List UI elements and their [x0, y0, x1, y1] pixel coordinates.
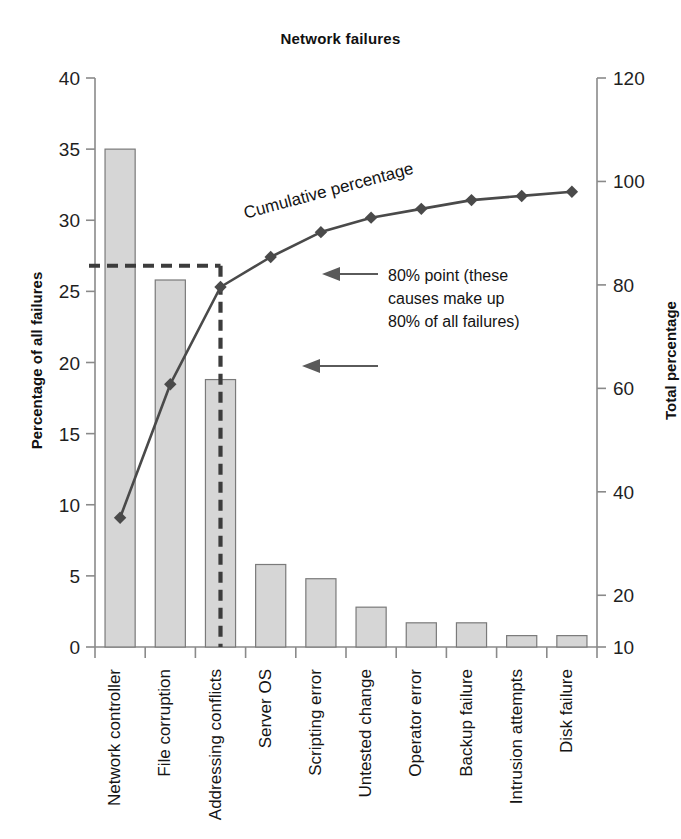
bar	[456, 623, 486, 647]
x-axis-category-label: Disk failure	[557, 669, 576, 753]
y-axis-right-ticks: 1020406080100120	[597, 68, 645, 658]
eighty-percent-note-line: causes make up	[388, 290, 505, 307]
plot-area: 0510152025303540 1020406080100120 Networ…	[0, 0, 681, 839]
y-tick-label-right: 80	[613, 275, 634, 296]
y-tick-label-right: 60	[613, 378, 634, 399]
bar	[406, 623, 436, 647]
bar	[306, 579, 336, 647]
cumulative-percentage-label: Cumulative percentage	[242, 159, 416, 223]
cumulative-marker	[516, 190, 528, 202]
chart-annotations: Cumulative percentage80% point (thesecau…	[242, 159, 520, 373]
cumulative-line	[120, 192, 572, 518]
y-tick-label-right: 120	[613, 68, 645, 89]
x-axis-category-label: Backup failure	[457, 669, 476, 777]
cumulative-marker	[415, 203, 427, 215]
y-axis-left-ticks: 0510152025303540	[59, 68, 95, 658]
bar	[507, 636, 537, 647]
x-axis-ticks	[95, 647, 597, 658]
pareto-chart: Network failures Percentage of all failu…	[0, 0, 681, 839]
y-tick-label-right: 100	[613, 171, 645, 192]
y-tick-label-right: 40	[613, 482, 634, 503]
cumulative-marker	[365, 211, 377, 223]
cumulative-line-series	[120, 192, 572, 518]
y-tick-label-right: 10	[613, 637, 634, 658]
y-tick-label-left: 10	[59, 495, 80, 516]
x-axis-category-label: Untested change	[356, 669, 375, 798]
y-tick-label-left: 15	[59, 424, 80, 445]
cumulative-marker	[566, 186, 578, 198]
y-tick-label-left: 20	[59, 353, 80, 374]
bar	[256, 564, 286, 647]
y-tick-label-left: 30	[59, 210, 80, 231]
cumulative-marker	[265, 251, 277, 263]
annotation-arrow-upper-head	[322, 267, 340, 281]
x-axis-category-label: File corruption	[155, 669, 174, 777]
x-axis-category-label: Intrusion attempts	[507, 669, 526, 804]
x-axis-category-label: Scripting error	[306, 669, 325, 776]
bar	[105, 149, 135, 647]
bar	[557, 636, 587, 647]
eighty-percent-note-line: 80% of all failures)	[388, 313, 520, 330]
y-tick-label-left: 35	[59, 139, 80, 160]
x-axis-category-label: Operator error	[406, 669, 425, 777]
x-axis-category-labels: Network controllerFile corruptionAddress…	[105, 669, 576, 821]
bar	[155, 280, 185, 647]
y-tick-label-right: 20	[613, 585, 634, 606]
y-tick-label-left: 0	[69, 637, 80, 658]
y-tick-label-left: 25	[59, 281, 80, 302]
x-axis-category-label: Network controller	[105, 669, 124, 806]
x-axis-category-label: Server OS	[256, 669, 275, 748]
cumulative-marker	[465, 194, 477, 206]
annotation-arrow-lower-head	[302, 359, 320, 373]
cumulative-marker	[214, 281, 226, 293]
y-tick-label-left: 5	[69, 566, 80, 587]
x-axis-category-label: Addressing conflicts	[206, 669, 225, 820]
eighty-percent-note-line: 80% point (these	[388, 267, 508, 284]
bar	[356, 607, 386, 647]
cumulative-marker	[315, 226, 327, 238]
y-tick-label-left: 40	[59, 68, 80, 89]
